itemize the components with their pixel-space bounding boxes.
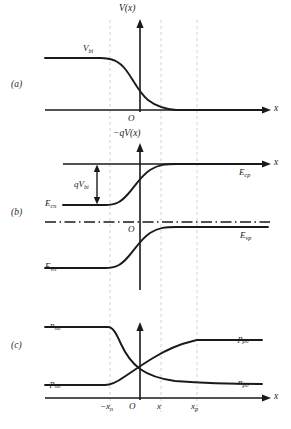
tick-label-x: x	[157, 402, 161, 411]
tick-label-xp: xp	[191, 402, 198, 411]
tick-label-minus-xn: −xn	[100, 402, 113, 411]
figure-canvas: (a) V(x) x O Vbi (b) −qV(x) x O Ecn Ecp …	[0, 0, 291, 429]
panel-c-label: (c)	[11, 340, 22, 350]
label-minority-electrons-p-side: np0	[238, 378, 249, 387]
panel-c-y-arrow	[136, 322, 143, 331]
panel-c-x-axis-label: x	[274, 392, 278, 402]
panel-c-x-arrow	[262, 394, 271, 401]
panel-c-hole-concentration-curve	[45, 340, 262, 385]
label-minority-holes-n-side: pn0	[50, 379, 61, 388]
label-majority-holes-p-side: pp0	[238, 334, 249, 343]
panel-c-plot	[0, 0, 291, 429]
label-majority-electrons-n-side: nn0	[50, 321, 61, 330]
panel-c-electron-concentration-curve	[45, 327, 262, 384]
tick-label-origin: O	[129, 402, 136, 411]
